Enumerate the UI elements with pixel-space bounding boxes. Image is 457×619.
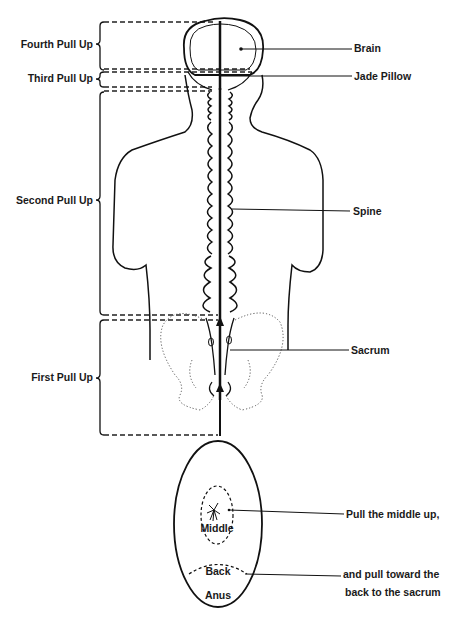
- pelvis-outline: [161, 313, 283, 410]
- label-sacrum: Sacrum: [351, 344, 390, 356]
- perineum-diagram: Middle Back Anus: [174, 441, 262, 607]
- pull-up-diagram: Fourth Pull Up Third Pull Up Second Pull…: [0, 0, 457, 619]
- label-spine: Spine: [353, 205, 382, 217]
- instruction-pull-back-1: and pull toward the: [343, 568, 439, 580]
- leader-spine: [232, 209, 350, 211]
- label-anus: Anus: [205, 589, 231, 601]
- leader-pull-middle: [229, 510, 344, 514]
- label-jade-pillow: Jade Pillow: [354, 70, 412, 82]
- bracket-first-pull-up: [96, 320, 218, 435]
- label-fourth-pull-up: Fourth Pull Up: [21, 38, 93, 50]
- label-third-pull-up: Third Pull Up: [28, 72, 93, 84]
- spine: [203, 88, 237, 436]
- head-brain: [184, 18, 263, 90]
- bracket-fourth-pull-up: [96, 22, 250, 70]
- middle-point-icon: [207, 503, 220, 521]
- label-second-pull-up: Second Pull Up: [16, 194, 93, 206]
- leader-pull-back: [245, 574, 341, 576]
- label-brain: Brain: [354, 42, 381, 54]
- label-back: Back: [205, 565, 230, 577]
- instruction-pull-back-2: back to the sacrum: [345, 586, 441, 598]
- label-middle: Middle: [200, 522, 233, 534]
- body-outline: [113, 75, 323, 360]
- label-first-pull-up: First Pull Up: [31, 371, 93, 383]
- instruction-pull-middle: Pull the middle up,: [346, 508, 439, 520]
